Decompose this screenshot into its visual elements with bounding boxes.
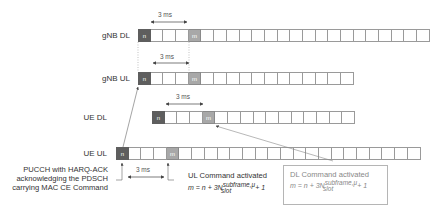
pucch-line-1: PUCCH with HARQ-ACK [4,165,108,174]
dl-command-box: DL Command activated m = n + 3Nsubframe,… [283,165,388,205]
dl-formula-prefix: m = n + 3N [290,182,325,189]
pucch-line-3: carrying MAC CE Command [4,183,108,192]
ul-command-title: UL Command activated [188,171,288,180]
dl-formula-suffix: + 1 [355,182,367,189]
ul-command-formula: m = n + 3Nsubframe,μslot + 1 [188,180,288,195]
ul-formula-prefix: m = n + 3N [188,184,223,191]
ul-formula-suffix: + 1 [253,184,265,191]
ul-command-annotation: UL Command activated m = n + 3Nsubframe,… [188,171,288,195]
pucch-line-2: acknowledging the PDSCH [4,174,108,183]
dl-command-title: DL Command activated [290,170,381,179]
dl-formula-sub: slot [323,185,333,192]
pucch-annotation: PUCCH with HARQ-ACK acknowledging the PD… [4,165,108,192]
ul-formula-sub: slot [221,187,231,194]
dl-command-formula: m = n + 3Nsubframe,μslot + 1 [290,179,381,192]
